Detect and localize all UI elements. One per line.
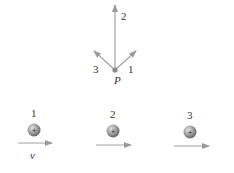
point-p-dot: [112, 67, 117, 72]
field-arrows: [94, 5, 136, 70]
field-arrow-label-3: 3: [93, 63, 99, 75]
charge-label-3: 3: [187, 109, 193, 121]
charge-3: 3 +: [174, 109, 209, 146]
plus-icon: +: [111, 128, 115, 135]
charge-1: 1 + v: [18, 107, 52, 161]
velocity-label: v: [30, 149, 35, 161]
diagram-canvas: 1 2 3 P 1 + v 2 + 3 +: [0, 0, 234, 173]
plus-icon: +: [188, 129, 192, 136]
field-arrow-label-1: 1: [128, 63, 134, 75]
plus-icon: +: [32, 127, 36, 134]
field-arrow-label-2: 2: [121, 10, 127, 22]
charge-label-1: 1: [31, 107, 37, 119]
point-p-label: P: [113, 74, 121, 86]
charge-2: 2 +: [96, 108, 131, 145]
charge-label-2: 2: [110, 108, 116, 120]
